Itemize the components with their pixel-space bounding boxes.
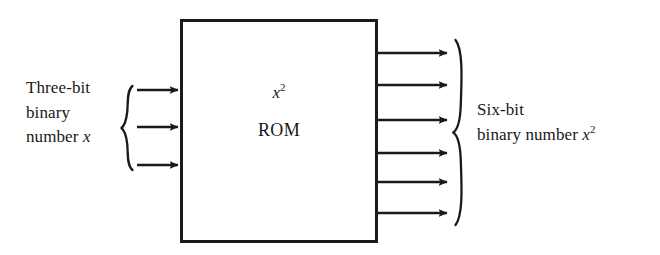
output-caption: Six-bit binary number x2 bbox=[477, 98, 596, 147]
rom-block-label: x2 ROM bbox=[180, 82, 378, 141]
input-caption-line-3: number x bbox=[26, 125, 91, 150]
rom-name-label: ROM bbox=[180, 119, 378, 141]
input-caption-line-3-prefix: number bbox=[26, 127, 83, 146]
input-caption: Three-bit binary number x bbox=[26, 76, 91, 150]
output-caption-variable: x bbox=[582, 125, 590, 144]
input-caption-line-1: Three-bit bbox=[26, 76, 91, 101]
output-caption-line-2-prefix: binary number bbox=[477, 125, 582, 144]
input-caption-line-2: binary bbox=[26, 101, 91, 126]
rom-formula-label: x2 bbox=[180, 82, 378, 104]
output-brace bbox=[453, 40, 461, 225]
output-caption-line-1: Six-bit bbox=[477, 98, 596, 123]
input-brace bbox=[121, 86, 132, 170]
output-caption-line-2: binary number x2 bbox=[477, 123, 596, 148]
input-arrow-group bbox=[137, 90, 178, 165]
figure-root: x2 ROM Three-bit binary number x Six-bit… bbox=[0, 0, 660, 255]
output-arrow-group bbox=[378, 53, 447, 213]
input-caption-variable: x bbox=[83, 127, 91, 146]
rom-formula-exponent: 2 bbox=[280, 81, 286, 93]
output-caption-exponent: 2 bbox=[590, 123, 596, 135]
rom-formula-variable: x bbox=[272, 83, 280, 102]
